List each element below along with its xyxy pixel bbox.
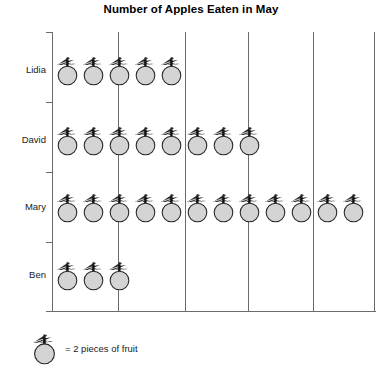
apple-icon (158, 125, 185, 156)
apple-icon (80, 125, 107, 156)
apple-strip-ben (54, 260, 132, 291)
apple-icon (262, 192, 289, 223)
apple-icon (80, 192, 107, 223)
legend-label: = 2 pieces of fruit (65, 343, 138, 354)
apple-icon (106, 125, 133, 156)
apple-icon (106, 192, 133, 223)
apple-icon (106, 125, 133, 156)
gridline (248, 32, 249, 312)
apple-icon (288, 192, 315, 223)
apple-icon (132, 125, 159, 156)
apple-icon (158, 125, 185, 156)
apple-icon (184, 192, 211, 223)
apple-strip-lidia (54, 55, 184, 86)
apple-icon (106, 192, 133, 223)
apple-icon (184, 125, 211, 156)
apple-icon (184, 125, 211, 156)
apple-icon (210, 125, 237, 156)
row-label-lidia: Lidia (0, 65, 46, 75)
apple-icon (54, 192, 81, 223)
apple-icon (314, 192, 341, 223)
apple-icon (106, 260, 133, 291)
apple-strip-mary (54, 192, 366, 223)
apple-icon (54, 55, 81, 86)
apple-icon (106, 55, 133, 86)
apple-icon (340, 192, 367, 223)
apple-icon (288, 192, 315, 223)
apple-icon (132, 55, 159, 86)
apple-icon (184, 192, 211, 223)
legend-apple-icon (30, 332, 59, 365)
apple-icon (132, 125, 159, 156)
apple-icon (54, 125, 81, 156)
row-label-david: David (0, 135, 46, 145)
apple-icon (80, 192, 107, 223)
gridline (185, 32, 186, 312)
apple-icon (106, 260, 133, 291)
apple-icon (54, 260, 81, 291)
apple-icon (80, 260, 107, 291)
row-label-mary: Mary (0, 202, 46, 212)
apple-icon (54, 192, 81, 223)
apple-icon (54, 260, 81, 291)
legend: = 2 pieces of fruit (30, 332, 138, 365)
apple-icon (106, 55, 133, 86)
apple-icon (132, 192, 159, 223)
apple-icon (158, 55, 185, 86)
apple-icon (236, 192, 263, 223)
apple-icon (30, 332, 59, 365)
apple-icon (80, 55, 107, 86)
apple-icon (340, 192, 367, 223)
apple-icon (54, 125, 81, 156)
gridline (313, 32, 314, 312)
gridline (374, 32, 375, 312)
apple-icon (236, 192, 263, 223)
apple-icon (132, 192, 159, 223)
apple-icon (210, 192, 237, 223)
apple-icon (210, 192, 237, 223)
apple-icon (132, 55, 159, 86)
apple-icon (80, 55, 107, 86)
apple-icon (80, 260, 107, 291)
page-title: Number of Apples Eaten in May (0, 3, 382, 15)
apple-icon (158, 192, 185, 223)
apple-strip-david (54, 125, 262, 156)
apple-icon (236, 125, 263, 156)
apple-icon (210, 125, 237, 156)
row-label-ben: Ben (0, 270, 46, 280)
apple-icon (158, 192, 185, 223)
gridline (52, 32, 53, 312)
apple-icon (54, 55, 81, 86)
apple-icon (314, 192, 341, 223)
apple-icon (262, 192, 289, 223)
apple-icon (80, 125, 107, 156)
apple-icon (236, 125, 263, 156)
apple-icon (158, 55, 185, 86)
